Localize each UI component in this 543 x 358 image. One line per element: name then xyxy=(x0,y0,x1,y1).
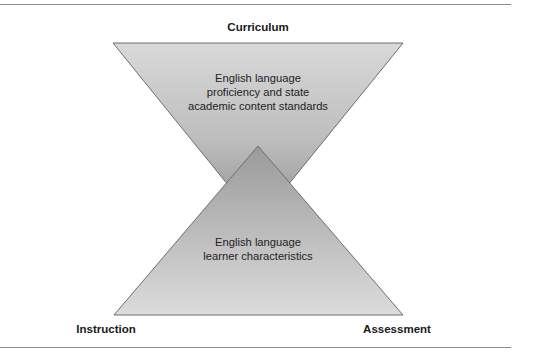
instruction-label: Instruction xyxy=(76,323,135,335)
upright-line-1: English language xyxy=(203,235,312,249)
upright-triangle xyxy=(114,146,403,315)
assessment-label: Assessment xyxy=(363,323,431,335)
inverted-line-1: English language xyxy=(188,71,328,85)
inverted-line-3: academic content standards xyxy=(188,99,328,113)
bottom-rule xyxy=(0,347,511,348)
hourglass-diagram xyxy=(0,0,543,358)
inverted-line-2: proficiency and state xyxy=(188,85,328,99)
upright-line-2: learner characteristics xyxy=(203,249,312,263)
inverted-triangle-text: English language proficiency and state a… xyxy=(188,71,328,114)
upright-triangle-text: English language learner characteristics xyxy=(203,235,312,263)
